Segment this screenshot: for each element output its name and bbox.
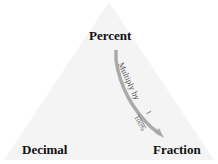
vertex-percent: Percent [89,28,131,44]
vertex-fraction: Fraction [153,142,201,158]
triangle-background [4,2,214,160]
vertex-decimal: Decimal [22,142,67,158]
conversion-triangle: Multiply by 1 100% [0,0,218,164]
